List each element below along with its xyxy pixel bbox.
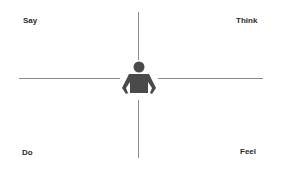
quadrant-label-feel: Feel <box>240 147 256 156</box>
person-icon <box>120 60 158 100</box>
quadrant-label-think: Think <box>236 16 257 25</box>
quadrant-label-say: Say <box>23 16 37 25</box>
quadrant-label-do: Do <box>22 148 33 157</box>
